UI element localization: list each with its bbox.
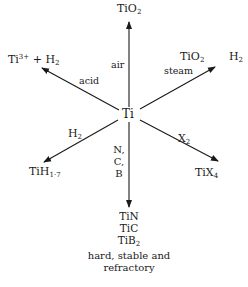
reagent-up-right-text: steam — [164, 65, 193, 76]
reagent-down-right-base: X — [178, 132, 186, 145]
product-down-left-base: TiH — [29, 165, 49, 178]
note-line2: refractory — [79, 262, 179, 274]
center-label-ti: Ti — [122, 108, 134, 120]
product-down-right-sub: 4 — [214, 172, 218, 180]
reagents-down: N, C, B — [111, 144, 127, 180]
product-up: TiO2 — [117, 3, 141, 18]
reagent-down-left-sub: 2 — [78, 133, 82, 141]
product-up-left-rest: + H — [29, 53, 55, 66]
product-tib2: TiB2 — [79, 234, 179, 250]
product-up-left-base: Ti — [8, 53, 19, 66]
reagent-down-right: X2 — [178, 133, 190, 148]
product-down-left: TiH1·7 — [29, 166, 61, 181]
reagent-down-right-sub: 2 — [186, 138, 190, 146]
reagent-up-left: acid — [79, 75, 99, 87]
product-tin: TiN — [79, 210, 179, 222]
reagent-up-text: air — [111, 59, 124, 70]
product-down-right: TiX4 — [195, 167, 218, 182]
product-tic: TiC — [79, 222, 179, 234]
byproduct-up-right: H2 — [229, 51, 243, 66]
product-up-right-sub: 2 — [200, 56, 204, 64]
reagent-up-right: steam — [164, 65, 193, 77]
product-up-right: TiO2 — [180, 51, 204, 66]
product-up-base: TiO — [117, 2, 137, 15]
product-up-sub: 2 — [137, 8, 141, 16]
reagent-n: N, — [111, 144, 127, 156]
byproduct-up-right-base: H — [229, 50, 239, 63]
reagent-down-left: H2 — [68, 128, 82, 143]
note-line1: hard, stable and — [79, 250, 179, 262]
product-down-left-sub: 1·7 — [49, 171, 60, 179]
center-text: Ti — [122, 107, 134, 121]
product-tib2-base: TiB — [118, 234, 136, 246]
product-up-left-sup: 3+ — [19, 53, 29, 61]
reagent-down-left-base: H — [68, 127, 78, 140]
byproduct-up-right-sub: 2 — [239, 56, 243, 64]
product-up-right-base: TiO — [180, 50, 200, 63]
products-down: TiN TiC TiB2 hard, stable and refractory — [79, 210, 179, 274]
product-up-left: Ti3+ + H2 — [8, 51, 59, 69]
product-down-right-base: TiX — [195, 166, 214, 179]
product-tib2-sub: 2 — [136, 240, 140, 248]
reagent-c: C, — [111, 156, 127, 168]
reagent-b: B — [111, 168, 127, 180]
product-up-left-rest-sub: 2 — [55, 59, 59, 67]
reagent-up-left-text: acid — [79, 75, 99, 86]
reagent-up: air — [111, 59, 124, 71]
